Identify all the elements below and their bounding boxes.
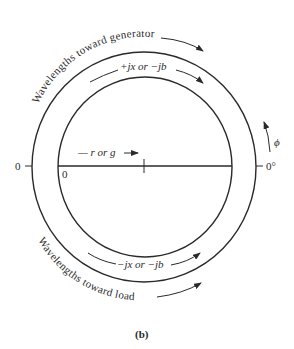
axis-label: — r or g (77, 146, 116, 158)
inner-zero-label: 0 (62, 168, 68, 180)
inner-top-lead-line (90, 70, 118, 82)
inner-bottom-arrow (171, 253, 200, 265)
inner-bottom-lead-line (88, 253, 116, 264)
phi-arrow (264, 122, 270, 152)
inner-bottom-label: −jx or −jb (117, 258, 164, 270)
inner-top-label: +jx or −jb (120, 60, 167, 72)
inner-top-arrow (176, 70, 203, 83)
right-angle-label: 0° (266, 160, 276, 172)
toward-load-arrow (157, 283, 201, 297)
left-zero-label: 0 (15, 160, 21, 172)
inner-circle (58, 77, 232, 257)
angle-symbol: ϕ (274, 136, 280, 148)
toward-generator-arrow (161, 38, 203, 51)
smith-chart-diagram: 0 0 0° — r or g ϕ Wavelengths toward gen… (0, 0, 294, 349)
figure-caption: (b) (135, 328, 149, 341)
